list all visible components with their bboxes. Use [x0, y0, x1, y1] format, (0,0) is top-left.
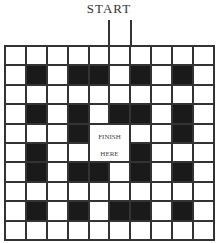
path-cell [90, 47, 109, 64]
path-cell [173, 86, 192, 103]
path-cell [110, 86, 129, 103]
wall-cell [131, 163, 150, 180]
wall-cell [69, 163, 88, 180]
wall-cell [110, 202, 129, 219]
path-cell [152, 105, 171, 122]
path-cell [194, 125, 213, 142]
finish-cell: FINISHHERE [90, 125, 130, 162]
path-cell [48, 66, 67, 83]
path-cell [194, 183, 213, 200]
wall-cell [27, 202, 46, 219]
path-cell [194, 47, 213, 64]
wall-cell [69, 125, 88, 142]
wall-cell [131, 202, 150, 219]
path-cell [27, 47, 46, 64]
wall-cell [90, 163, 109, 180]
path-cell [110, 47, 129, 64]
path-cell [6, 105, 25, 122]
here-label: HERE [90, 150, 130, 158]
wall-cell [131, 144, 150, 161]
path-cell [152, 66, 171, 83]
wall-cell [131, 105, 150, 122]
wall-cell [27, 66, 46, 83]
start-label: START [0, 1, 218, 17]
wall-cell [173, 125, 192, 142]
path-cell [194, 222, 213, 239]
path-cell [27, 86, 46, 103]
path-cell [194, 202, 213, 219]
path-cell [69, 86, 88, 103]
finish-label: FINISH [90, 133, 130, 141]
path-cell [27, 183, 46, 200]
path-cell [152, 86, 171, 103]
path-cell [131, 125, 150, 142]
path-cell [69, 222, 88, 239]
wall-cell [131, 66, 150, 83]
path-cell [6, 202, 25, 219]
path-cell [48, 86, 67, 103]
path-cell [90, 86, 109, 103]
wall-cell [173, 66, 192, 83]
wall-cell [27, 163, 46, 180]
path-cell [152, 125, 171, 142]
path-cell [110, 222, 129, 239]
path-cell [48, 144, 67, 161]
entry-line-left [108, 20, 110, 46]
path-cell [48, 105, 67, 122]
wall-cell [69, 105, 88, 122]
wall-cell [90, 66, 109, 83]
path-cell [173, 144, 192, 161]
wall-cell [69, 202, 88, 219]
wall-cell [27, 144, 46, 161]
path-cell [173, 47, 192, 64]
path-cell [27, 125, 46, 142]
path-cell [131, 47, 150, 64]
path-cell [6, 125, 25, 142]
path-cell [152, 202, 171, 219]
wall-cell [173, 202, 192, 219]
path-cell [48, 183, 67, 200]
path-cell [90, 202, 109, 219]
path-cell [131, 222, 150, 239]
path-cell [27, 222, 46, 239]
path-cell [194, 86, 213, 103]
path-cell [194, 163, 213, 180]
path-cell [152, 144, 171, 161]
path-cell [6, 183, 25, 200]
path-cell [173, 183, 192, 200]
path-cell [6, 47, 25, 64]
path-cell [6, 66, 25, 83]
maze-grid: FINISHHERE [4, 45, 215, 241]
path-cell [194, 105, 213, 122]
path-cell [152, 47, 171, 64]
path-cell [110, 183, 129, 200]
path-cell [152, 163, 171, 180]
path-cell [152, 183, 171, 200]
path-cell [48, 202, 67, 219]
path-cell [110, 163, 129, 180]
path-cell [194, 66, 213, 83]
path-cell [194, 144, 213, 161]
entry-line-right [130, 20, 132, 46]
path-cell [131, 86, 150, 103]
path-cell [110, 66, 129, 83]
path-cell [152, 222, 171, 239]
path-cell [90, 183, 109, 200]
path-cell [90, 222, 109, 239]
path-cell [6, 222, 25, 239]
path-cell [48, 222, 67, 239]
path-cell [173, 222, 192, 239]
path-cell [69, 183, 88, 200]
wall-cell [110, 105, 129, 122]
path-cell [48, 125, 67, 142]
path-cell [48, 47, 67, 64]
wall-cell [27, 105, 46, 122]
path-cell [6, 86, 25, 103]
wall-cell [69, 66, 88, 83]
path-cell [131, 183, 150, 200]
path-cell [6, 163, 25, 180]
wall-cell [173, 163, 192, 180]
wall-cell [173, 105, 192, 122]
path-cell [90, 105, 109, 122]
path-cell [48, 163, 67, 180]
